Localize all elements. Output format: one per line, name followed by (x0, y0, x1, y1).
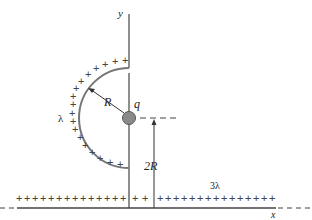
diagram-canvas: y + + + + + + + + + + + + + + + + + + λ … (0, 0, 312, 220)
svg-text:+: + (221, 192, 227, 204)
svg-text:+: + (253, 192, 259, 204)
x-axis-label: x (270, 209, 276, 220)
svg-text:+: + (85, 68, 91, 80)
y-axis-label: y (117, 7, 123, 19)
point-charge (123, 112, 136, 125)
svg-text:+: + (122, 54, 128, 66)
svg-text:+: + (117, 158, 123, 170)
svg-text:+: + (112, 55, 118, 67)
svg-text:+: + (96, 192, 102, 204)
svg-text:+: + (104, 192, 110, 204)
svg-text:+: + (181, 192, 187, 204)
svg-text:+: + (16, 192, 22, 204)
svg-text:+: + (245, 192, 251, 204)
arc-charges: + + + + + + + + + + + + + + + + + + (69, 54, 128, 170)
arc-density-label: λ (58, 112, 64, 124)
svg-text:+: + (48, 192, 54, 204)
svg-text:+: + (24, 192, 30, 204)
svg-text:+: + (157, 192, 163, 204)
radius-label: R (103, 95, 112, 109)
svg-text:+: + (213, 192, 219, 204)
svg-text:+: + (165, 192, 171, 204)
svg-text:+: + (88, 192, 94, 204)
svg-text:+: + (132, 192, 138, 204)
height-label: 2R (144, 159, 158, 173)
svg-text:+: + (120, 192, 126, 204)
svg-text:+: + (237, 192, 243, 204)
svg-text:+: + (269, 192, 275, 204)
line-charges: + + + + + + + + + + + + + + + + + + + + … (16, 192, 275, 204)
svg-text:+: + (32, 192, 38, 204)
svg-text:+: + (107, 156, 113, 168)
svg-text:+: + (56, 192, 62, 204)
svg-text:+: + (142, 192, 148, 204)
charge-label: q (134, 97, 140, 111)
svg-text:+: + (189, 192, 195, 204)
line-density-label: 3λ (210, 180, 220, 191)
svg-text:+: + (93, 62, 99, 74)
svg-text:+: + (89, 146, 95, 158)
svg-text:+: + (40, 192, 46, 204)
svg-text:+: + (64, 192, 70, 204)
svg-text:+: + (173, 192, 179, 204)
svg-text:+: + (80, 192, 86, 204)
svg-text:+: + (82, 139, 88, 151)
svg-text:+: + (197, 192, 203, 204)
charged-arc (79, 68, 129, 168)
svg-text:+: + (112, 192, 118, 204)
svg-text:+: + (102, 58, 108, 70)
svg-text:+: + (261, 192, 267, 204)
svg-text:+: + (97, 152, 103, 164)
svg-text:+: + (229, 192, 235, 204)
height-arrowhead-icon (152, 119, 157, 125)
svg-text:+: + (72, 192, 78, 204)
svg-text:+: + (205, 192, 211, 204)
